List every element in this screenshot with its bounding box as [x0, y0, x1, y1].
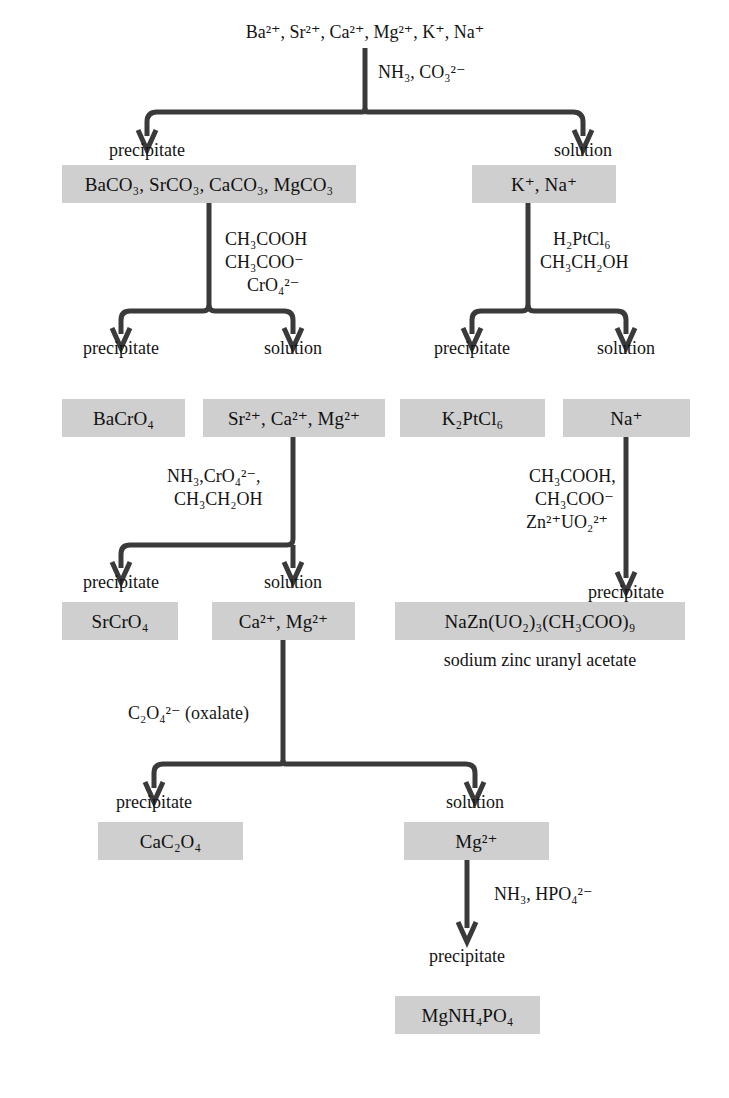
- branch-label-solution-5: solution: [446, 792, 504, 814]
- reagent-step2-right-line2: CH₃CH₂OH: [540, 252, 629, 274]
- reagent-step2-left-line1: CH₃COOH: [225, 229, 307, 251]
- qualitative-analysis-flowchart: Ba²⁺, Sr²⁺, Ca²⁺, Mg²⁺, K⁺, Na⁺ NH₃, CO₃…: [0, 0, 729, 1098]
- box-barium-chromate: BaCrO₄: [62, 399, 185, 437]
- branch-label-precipitate-4: precipitate: [83, 572, 159, 594]
- box-alkali-ions: K⁺, Na⁺: [472, 165, 616, 203]
- box-potassium-chloroplatinate: K₂PtCl₆: [400, 399, 545, 437]
- box-sodium-ion: Na⁺: [563, 399, 690, 437]
- reagent-step3-right-line2: CH₃COO⁻: [535, 489, 614, 511]
- reagent-step4-line1: C₂O₄²⁻ (oxalate): [128, 703, 249, 725]
- reagent-step3-left-line2: CH₃CH₂OH: [174, 489, 263, 511]
- branch-label-precipitate-3: precipitate: [434, 338, 510, 360]
- reagent-step5-line1: NH₃, HPO₄²⁻: [494, 884, 592, 906]
- box-sodium-zinc-uranyl-acetate: NaZn(UO₂)₃(CH₃COO)₉: [395, 602, 685, 640]
- start-ions-label: Ba²⁺, Sr²⁺, Ca²⁺, Mg²⁺, K⁺, Na⁺: [246, 22, 485, 44]
- branch-label-precipitate-7: precipitate: [429, 946, 505, 968]
- box-magnesium-ion: Mg²⁺: [404, 822, 549, 860]
- box-sr-ca-mg: Sr²⁺, Ca²⁺, Mg²⁺: [203, 399, 385, 437]
- reagent-step2-left-line3: CrO₄²⁻: [247, 275, 299, 297]
- reagent-step2-left-line2: CH₃COO⁻: [225, 252, 304, 274]
- branch-label-precipitate-6: precipitate: [116, 792, 192, 814]
- box-ca-mg: Ca²⁺, Mg²⁺: [212, 602, 355, 640]
- reagent-step1-line1: NH₃, CO₃²⁻: [378, 62, 465, 84]
- branch-label-solution-4: solution: [264, 572, 322, 594]
- box-carbonates: BaCO₃, SrCO₃, CaCO₃, MgCO₃: [62, 165, 356, 203]
- reagent-step3-right-line3: Zn²⁺UO₂²⁺: [526, 512, 608, 534]
- reagent-step3-left-line1: NH₃,CrO₄²⁻,: [167, 466, 260, 488]
- branch-label-precipitate-1: precipitate: [109, 140, 185, 162]
- box-magnesium-ammonium-phosphate: MgNH₄PO₄: [395, 996, 540, 1034]
- branch-label-precipitate-2: precipitate: [83, 338, 159, 360]
- box-calcium-oxalate: CaC₂O₄: [98, 822, 243, 860]
- caption-sodium-zinc-uranyl-acetate: sodium zinc uranyl acetate: [444, 650, 636, 671]
- branch-label-solution-2: solution: [264, 338, 322, 360]
- reagent-step3-right-line1: CH₃COOH,: [529, 466, 616, 488]
- branch-label-precipitate-5: precipitate: [588, 582, 664, 604]
- branch-label-solution-1: solution: [554, 140, 612, 162]
- box-strontium-chromate: SrCrO₄: [62, 602, 178, 640]
- branch-label-solution-3: solution: [597, 338, 655, 360]
- reagent-step2-right-line1: H₂PtCl₆: [553, 229, 611, 251]
